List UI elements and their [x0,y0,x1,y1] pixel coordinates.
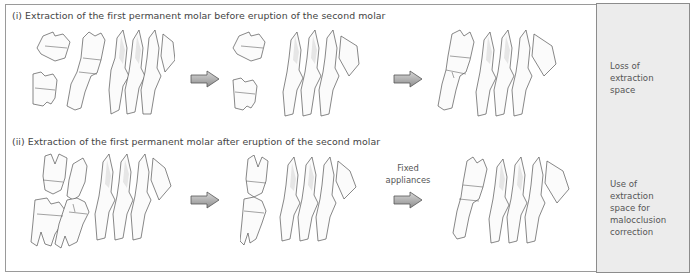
outcome-column: Loss of extraction space Use of extracti… [596,3,690,273]
outcome-line: extraction [610,72,654,84]
outcome-line: extraction [610,190,666,202]
outcome-line: Loss of [610,60,654,72]
teeth-illustration-row2-initial [25,152,175,252]
row-1-title: (i) Extraction of the first permanent mo… [12,10,386,21]
arrow-icon [393,70,423,88]
teeth-illustration-row1-initial [25,28,175,123]
outcome-line: malocclusion [610,214,666,226]
label-line: appliances [378,174,438,186]
arrow-icon [190,191,220,209]
outcome-line: space for [610,202,666,214]
outcome-row-1: Loss of extraction space [610,60,654,96]
teeth-illustration-row1-result [430,28,580,123]
teeth-illustration-row1-after-extraction [225,28,370,123]
label-line: Fixed [378,162,438,174]
outcome-row-2: Use of extraction space for malocclusion… [610,178,666,238]
outcome-line: Use of [610,178,666,190]
outcome-line: correction [610,226,666,238]
outcome-line: space [610,84,654,96]
teeth-illustration-row2-after-extraction [240,155,365,250]
row-2-title: (ii) Extraction of the first permanent m… [12,136,380,147]
arrow-icon [393,191,423,209]
arrow-icon [190,70,220,88]
teeth-illustration-row2-result [445,155,585,250]
fixed-appliances-label: Fixed appliances [378,162,438,186]
